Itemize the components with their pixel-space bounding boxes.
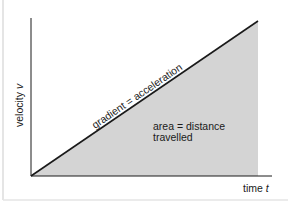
y-axis-label: velocity v xyxy=(13,83,25,127)
diagram-frame: velocity v time t gradient = acceleratio… xyxy=(0,0,288,202)
x-axis-label: time t xyxy=(243,182,270,194)
velocity-time-graph: velocity v time t gradient = acceleratio… xyxy=(0,0,288,202)
area-annotation-line2: travelled xyxy=(153,131,193,143)
